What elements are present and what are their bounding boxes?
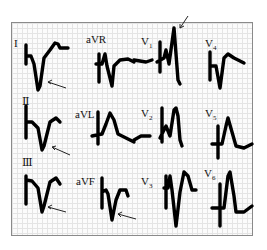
lead-label-I: I xyxy=(14,37,18,49)
trace-I xyxy=(26,43,68,90)
trace-III xyxy=(26,176,60,212)
lead-label-V1: V1 xyxy=(141,35,153,50)
lead-label-aVR: aVR xyxy=(86,33,107,45)
arrow-icon-III xyxy=(48,205,66,212)
trace-V6 xyxy=(212,172,252,226)
trace-II xyxy=(26,106,60,150)
lead-label-aVF: aVF xyxy=(76,175,95,187)
lead-label-V2: V2 xyxy=(141,107,153,122)
trace-aVR xyxy=(96,54,134,86)
trace-V4 xyxy=(210,52,244,88)
arrow-icon-II xyxy=(52,146,70,155)
trace-aVF xyxy=(102,178,128,220)
lead-label-aVL: aVL xyxy=(75,108,95,120)
lead-label-V3: V3 xyxy=(141,175,153,190)
trace-aVL xyxy=(92,112,134,144)
lead-label-V6: V6 xyxy=(204,167,216,182)
ecg-traces: I Ⅱ Ⅲ aVR aVL aVF V1 V2 V3 V4 V5 V6 xyxy=(0,0,267,250)
lead-label-V5: V5 xyxy=(205,107,217,122)
trace-V5 xyxy=(212,118,252,158)
arrow-icon-I xyxy=(48,80,66,88)
arrow-icon-V1 xyxy=(180,16,188,28)
trace-V3 xyxy=(164,172,196,226)
lead-label-V4: V4 xyxy=(205,37,217,52)
lead-label-III: Ⅲ xyxy=(22,156,33,168)
arrow-icon-aVF xyxy=(118,212,136,219)
